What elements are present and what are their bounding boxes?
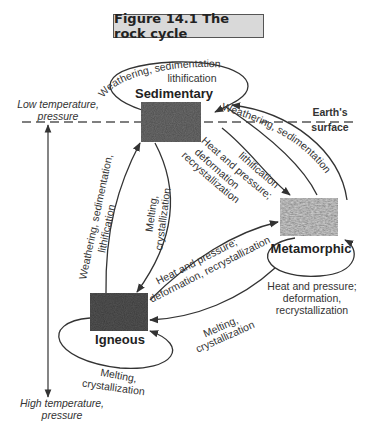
axis-top-label-2: pressure: [37, 110, 79, 122]
igneous-rock-image: [90, 293, 148, 331]
meta-loop-label-2: deformation,: [283, 292, 341, 304]
ign-to-sed-label: Weathering, sedimentation, lithification: [76, 153, 127, 283]
igneous-label: Igneous: [95, 332, 145, 347]
sedimentary-rock-image: [141, 102, 201, 142]
earth-surface-label-2: surface: [311, 121, 349, 133]
meta-loop-label-1: Heat and pressure;: [267, 280, 356, 292]
meta-to-ign-label: Melting, crystallization: [189, 308, 256, 355]
metamorphic-label: Metamorphic: [271, 241, 352, 256]
ign-loop-label: Melting, crystallization: [82, 366, 146, 397]
sed-loop-label-2: lithification: [167, 72, 216, 84]
axis-bottom-label-1: High temperature,: [20, 397, 104, 409]
sedimentary-label: Sedimentary: [135, 86, 214, 101]
rock-cycle-diagram: Low temperature, pressure High temperatu…: [0, 0, 375, 438]
axis-top-label-1: Low temperature,: [17, 98, 99, 110]
axis-bottom-label-2: pressure: [41, 409, 83, 421]
meta-loop-label-3: recrystallization: [276, 304, 349, 316]
earth-surface-label-1: Earth's: [312, 106, 347, 118]
metamorphic-rock-image: [280, 198, 338, 236]
sed-to-ign-label: Melting, crystallization: [140, 185, 173, 251]
